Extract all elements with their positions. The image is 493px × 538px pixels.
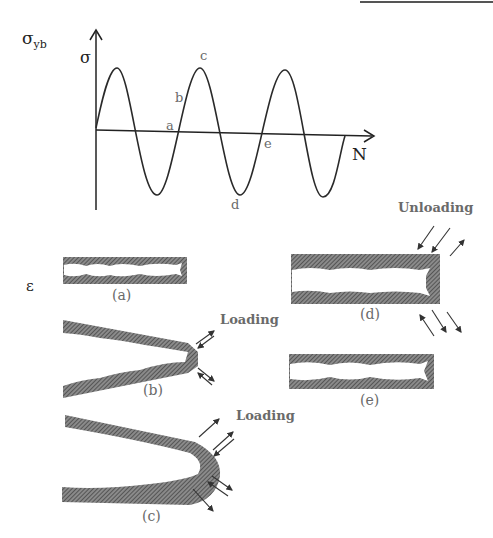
crack-panel-b [63, 320, 214, 398]
loading-label-b: Loading [220, 312, 279, 327]
panel-d-caption: (d) [360, 306, 380, 322]
point-c-label: c [200, 48, 207, 63]
y-axis-label: σ [80, 48, 91, 67]
loading-label-c: Loading [236, 408, 295, 423]
panel-e-caption: (e) [360, 392, 379, 408]
point-b-label: b [175, 90, 183, 105]
stress-wave [96, 68, 345, 197]
point-d-label: d [231, 197, 239, 212]
sigma-yb-label: σyb [22, 28, 47, 51]
point-e-label: e [264, 136, 272, 151]
x-axis-label: N [352, 144, 367, 164]
panel-c-caption: (c) [142, 508, 161, 524]
unloading-label-d: Unloading [398, 200, 473, 215]
diagram-canvas [0, 0, 493, 538]
panel-b-caption: (b) [143, 382, 163, 398]
x-axis [96, 130, 372, 136]
crack-panel-e [289, 354, 434, 389]
crack-panel-a [63, 257, 187, 284]
strain-label: ε [26, 277, 34, 295]
crack-panel-c [62, 415, 234, 511]
point-a-label: a [166, 118, 174, 133]
panel-a-caption: (a) [112, 287, 131, 303]
stress-cycle-graph [90, 30, 374, 210]
